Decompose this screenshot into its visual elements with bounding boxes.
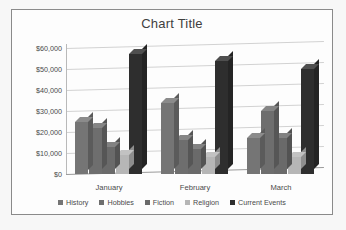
bar-history-march <box>247 138 260 174</box>
plot-area: $60,000$50,000$40,000$30,000$20,000$10,0… <box>12 10 334 216</box>
y-axis-label: $0 <box>16 170 62 179</box>
x-axis-category-label: January <box>66 183 152 192</box>
bar-side <box>228 51 233 169</box>
y-axis-label: $20,000 <box>16 128 62 137</box>
bar-side <box>314 59 319 169</box>
bar-side <box>274 101 279 169</box>
legend-item-history[interactable]: History <box>58 198 88 207</box>
legend-swatch-icon <box>230 200 235 205</box>
bar-face <box>75 122 88 175</box>
legend-swatch-icon <box>99 200 104 205</box>
legend-label: History <box>66 198 88 207</box>
legend-label: Current Events <box>238 198 286 207</box>
x-axis-category-label: February <box>152 183 238 192</box>
bar-side <box>142 44 147 169</box>
y-axis-line <box>66 44 67 174</box>
gridline <box>66 41 324 49</box>
gridline <box>66 62 324 70</box>
legend-swatch-icon <box>58 200 63 205</box>
legend-label: Fiction <box>153 198 174 207</box>
legend-item-hobbies[interactable]: Hobbies <box>99 198 133 207</box>
y-axis-label: $60,000 <box>16 44 62 53</box>
bar-history-january <box>75 122 88 175</box>
bar-side <box>174 93 179 169</box>
y-axis-label: $10,000 <box>16 149 62 158</box>
y-axis-label: $30,000 <box>16 107 62 116</box>
legend-item-religion[interactable]: Religion <box>185 198 219 207</box>
bar-history-february <box>161 103 174 174</box>
y-axis-label: $40,000 <box>16 86 62 95</box>
chart-frame: Chart Title $60,000$50,000$40,000$30,000… <box>11 9 333 215</box>
legend-swatch-icon <box>145 200 150 205</box>
legend-swatch-icon <box>185 200 190 205</box>
gridline <box>66 104 324 112</box>
bar-face <box>247 138 260 174</box>
x-axis-category-label: March <box>238 183 324 192</box>
legend-label: Religion <box>193 198 219 207</box>
bar-face <box>161 103 174 174</box>
gridline <box>66 83 324 91</box>
legend-label: Hobbies <box>107 198 133 207</box>
legend-item-current-events[interactable]: Current Events <box>230 198 286 207</box>
legend-item-fiction[interactable]: Fiction <box>145 198 174 207</box>
chart-legend: HistoryHobbiesFictionReligionCurrent Eve… <box>12 198 332 207</box>
y-axis-label: $50,000 <box>16 65 62 74</box>
